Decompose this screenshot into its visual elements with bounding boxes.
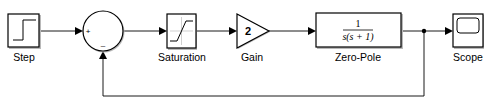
gain-value: 2 — [245, 25, 251, 37]
tf-denominator: s(s + 1) — [342, 31, 374, 43]
zero-pole-label: Zero-Pole — [335, 51, 381, 63]
arrow-into-zeropole — [308, 27, 316, 35]
step-block[interactable]: Step — [8, 14, 41, 63]
gain-block[interactable]: 2 Gain — [237, 14, 270, 63]
branch-junction-dot — [422, 29, 426, 33]
sum-minus-sign: – — [101, 41, 106, 50]
sum-plus-sign: + — [86, 27, 91, 36]
gain-triangle-icon — [237, 14, 269, 48]
step-label: Step — [13, 51, 35, 63]
zero-pole-block[interactable]: 1 s(s + 1) Zero-Pole — [316, 13, 403, 63]
arrow-into-scope — [445, 27, 453, 35]
tf-numerator: 1 — [356, 18, 361, 29]
block-diagram: Step + – Saturation 2 Gain 1 s(s + 1) — [0, 0, 497, 107]
arrow-into-gain — [229, 27, 237, 35]
sum-block[interactable]: + – — [83, 11, 125, 53]
arrow-into-saturation — [159, 27, 167, 35]
scope-screen-icon — [457, 18, 479, 33]
scope-block[interactable]: Scope — [453, 14, 484, 63]
saturation-block[interactable]: Saturation — [158, 14, 206, 63]
saturation-label: Saturation — [158, 51, 206, 63]
gain-label: Gain — [241, 51, 263, 63]
scope-label: Scope — [453, 51, 483, 63]
arrow-into-sum-plus — [75, 27, 83, 35]
